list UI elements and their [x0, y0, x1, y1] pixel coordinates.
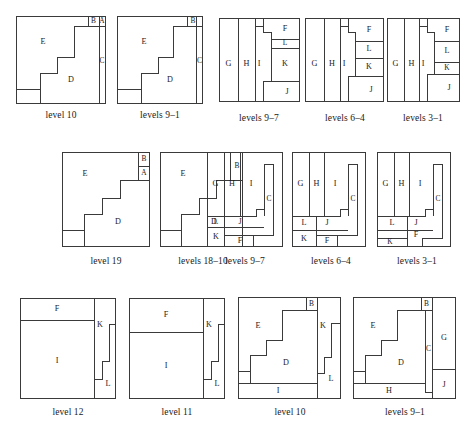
- diagram-panel-levels-9-1-a: E B C D: [117, 16, 203, 104]
- region-label-B: B: [142, 154, 147, 163]
- region-label-K: K: [320, 321, 326, 330]
- region-label-H: H: [399, 179, 405, 188]
- diagram-panel-levels-6-4-b: G H I C L J K F: [292, 152, 366, 247]
- region-label-K: K: [366, 62, 372, 71]
- dissection-svg: G H I F L K J: [305, 18, 384, 102]
- dissection-svg: E B C D: [117, 16, 203, 104]
- region-label-I: I: [165, 361, 168, 370]
- region-label-F: F: [414, 230, 419, 239]
- region-label-B: B: [191, 16, 196, 25]
- diagram-panel-levels-6-4-a: G H I F L K J: [305, 18, 384, 102]
- region-label-E: E: [141, 37, 146, 46]
- region-label-F: F: [238, 236, 243, 245]
- region-label-G: G: [393, 59, 399, 68]
- region-label-G: G: [441, 333, 447, 342]
- region-label-J: J: [414, 218, 418, 227]
- region-label-C: C: [426, 344, 431, 353]
- region-label-F: F: [283, 24, 288, 33]
- region-label-G: G: [213, 179, 219, 188]
- region-label-L: L: [214, 217, 219, 226]
- region-label-F: F: [164, 310, 169, 319]
- region-label-G: G: [226, 59, 232, 68]
- region-label-G: G: [298, 179, 304, 188]
- region-label-E: E: [370, 321, 375, 330]
- region-label-J: J: [325, 218, 329, 227]
- region-label-K: K: [301, 234, 307, 243]
- panel-caption-level-11: level 11: [122, 407, 232, 418]
- diagram-panel-levels-3-1-b: G H I C L J K F: [377, 152, 451, 247]
- region-label-D: D: [398, 358, 404, 367]
- region-label-H: H: [314, 179, 320, 188]
- region-label-F: F: [445, 25, 450, 34]
- region-label-L: L: [389, 218, 394, 227]
- diagram-panel-level-11: F I K L: [129, 298, 225, 399]
- panel-caption-level-10: level 10: [6, 110, 116, 121]
- region-label-H: H: [386, 386, 392, 395]
- region-label-H: H: [229, 179, 235, 188]
- panel-caption-level-10-b: level 10: [235, 407, 345, 418]
- diagram-panel-levels-9-1-b: E B D H C G J: [353, 297, 456, 399]
- region-label-D: D: [68, 75, 74, 84]
- region-label-H: H: [409, 59, 415, 68]
- region-label-I: I: [277, 386, 280, 395]
- region-label-F: F: [325, 236, 330, 245]
- region-label-J: J: [238, 217, 242, 226]
- region-label-A: A: [99, 16, 105, 25]
- region-label-E: E: [40, 37, 45, 46]
- region-label-J: J: [369, 85, 373, 94]
- region-label-I: I: [56, 356, 59, 365]
- panel-caption-level-12: level 12: [13, 407, 123, 418]
- region-label-G: G: [312, 59, 318, 68]
- dissection-svg: F I K L: [129, 298, 225, 399]
- region-label-I: I: [334, 179, 337, 188]
- diagram-panel-levels-3-1-a: G H I F L K J: [387, 18, 460, 102]
- region-label-L: L: [444, 46, 449, 55]
- region-label-C: C: [267, 194, 272, 203]
- panel-caption-levels-9-1-a: levels 9–1: [105, 110, 215, 121]
- panel-caption-levels-9-1-b: levels 9–1: [350, 407, 460, 418]
- region-label-D: D: [167, 75, 173, 84]
- region-label-I: I: [343, 59, 346, 68]
- region-label-B: B: [309, 299, 314, 308]
- region-label-B: B: [91, 16, 96, 25]
- region-label-K: K: [97, 320, 103, 329]
- region-label-H: H: [329, 59, 335, 68]
- region-label-I: I: [250, 179, 253, 188]
- dissection-svg: G H I C L J K F: [377, 152, 451, 247]
- region-label-F: F: [55, 304, 60, 313]
- region-label-D: D: [283, 358, 289, 367]
- region-label-J: J: [447, 83, 451, 92]
- region-label-I: I: [419, 179, 422, 188]
- diagram-panel-levels-9-7-b: G H I C L J K F: [207, 152, 283, 247]
- diagram-panel-level-10: E B A C D: [16, 16, 106, 104]
- region-label-L: L: [105, 379, 110, 388]
- region-label-F: F: [367, 25, 372, 34]
- panel-caption-levels-3-1-a: levels 3–1: [368, 113, 473, 124]
- region-label-L: L: [366, 44, 371, 53]
- region-label-C: C: [436, 194, 441, 203]
- dissection-svg: G H I F L K J: [219, 18, 300, 102]
- dissection-svg: F I K L: [20, 298, 116, 399]
- region-label-K: K: [282, 59, 288, 68]
- dissection-svg: E B D H C G J: [353, 297, 456, 399]
- region-label-E: E: [255, 321, 260, 330]
- region-label-B: B: [424, 299, 429, 308]
- dissection-svg: G H I C L J K F: [207, 152, 283, 247]
- region-label-C: C: [351, 194, 356, 203]
- region-label-C: C: [100, 56, 105, 65]
- region-label-J: J: [442, 380, 446, 389]
- region-label-I: I: [422, 59, 425, 68]
- dissection-svg: G H I F L K J: [387, 18, 460, 102]
- dissection-svg: E B D I K L: [238, 297, 341, 399]
- region-label-L: L: [301, 218, 306, 227]
- region-label-L: L: [214, 379, 219, 388]
- diagram-panel-level-12: F I K L: [20, 298, 116, 399]
- panel-caption-level-19: level 19: [51, 256, 161, 267]
- diagram-panel-levels-9-7-a: G H I F L K J: [219, 18, 300, 102]
- region-label-C: C: [197, 56, 202, 65]
- region-label-K: K: [387, 237, 393, 246]
- dissection-svg: E B A C D: [16, 16, 106, 104]
- panel-caption-levels-3-1-b: levels 3–1: [362, 256, 472, 267]
- diagram-panel-level-10-b: E B D I K L: [238, 297, 341, 399]
- diagram-panel-level-19: E B A D: [62, 152, 150, 247]
